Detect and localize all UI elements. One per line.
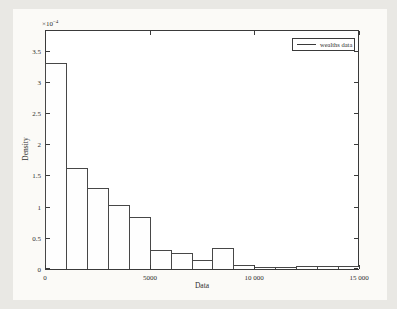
y-tick-mark xyxy=(354,82,358,83)
x-tick-label: 10 000 xyxy=(244,274,263,282)
y-tick-mark xyxy=(46,144,50,145)
y-tick-label: 2 xyxy=(38,141,42,149)
x-tick-mark xyxy=(150,265,151,269)
y-axis-multiplier: ×10−4 xyxy=(42,18,58,28)
y-tick-label: 3 xyxy=(38,79,42,87)
y-tick-mark xyxy=(46,51,50,52)
y-tick-mark xyxy=(46,82,50,83)
y-tick-label: 2.5 xyxy=(32,110,41,118)
histogram-figure: ×10−4 Density wealths data Data 0500010 … xyxy=(13,9,387,300)
y-tick-mark xyxy=(354,144,358,145)
x-tick-mark xyxy=(150,31,151,35)
y-tick-label: 1 xyxy=(38,204,42,212)
histogram-bar xyxy=(317,266,339,269)
legend-line-sample xyxy=(297,44,316,45)
histogram-bar xyxy=(192,260,213,269)
x-tick-mark xyxy=(254,265,255,269)
y-tick-label: 1.5 xyxy=(32,172,41,180)
x-tick-label: 15 000 xyxy=(349,274,368,282)
y-tick-mark xyxy=(354,207,358,208)
histogram-bar xyxy=(233,265,255,269)
x-tick-mark xyxy=(359,31,360,35)
histogram-bar xyxy=(150,250,172,269)
histogram-bar xyxy=(296,266,318,269)
y-tick-label: 0 xyxy=(38,266,42,274)
y-tick-mark xyxy=(354,238,358,239)
x-axis-label: Data xyxy=(195,281,209,290)
y-axis-label: Density xyxy=(21,137,30,160)
histogram-bar xyxy=(108,205,130,269)
legend-label: wealths data xyxy=(320,41,352,48)
histogram-bar xyxy=(254,267,276,269)
y-tick-mark xyxy=(46,238,50,239)
y-tick-mark xyxy=(354,51,358,52)
histogram-bar xyxy=(66,168,88,269)
multiplier-base: ×10 xyxy=(42,20,53,28)
x-tick-mark xyxy=(45,31,46,35)
screenshot-canvas: { "style": { "page_bg": "#e9e8e4", "figu… xyxy=(0,0,397,309)
y-tick-label: 0.5 xyxy=(32,235,41,243)
legend-box: wealths data xyxy=(292,38,355,51)
histogram-bar xyxy=(129,217,151,269)
multiplier-exponent: −4 xyxy=(53,19,58,24)
y-tick-mark xyxy=(354,175,358,176)
histogram-bar xyxy=(87,188,109,269)
x-tick-mark xyxy=(254,31,255,35)
y-tick-mark xyxy=(354,268,358,269)
histogram-bar xyxy=(171,253,193,269)
y-tick-mark xyxy=(46,175,50,176)
y-tick-mark xyxy=(46,113,50,114)
x-tick-mark xyxy=(359,265,360,269)
y-tick-mark xyxy=(46,268,50,269)
y-tick-mark xyxy=(46,207,50,208)
y-tick-mark xyxy=(354,113,358,114)
y-tick-label: 3.5 xyxy=(32,48,41,56)
x-tick-label: 5000 xyxy=(143,274,157,282)
x-tick-label: 0 xyxy=(43,274,47,282)
histogram-bar xyxy=(212,248,234,269)
histogram-bar xyxy=(275,267,297,269)
plot-area: wealths data xyxy=(45,30,359,270)
